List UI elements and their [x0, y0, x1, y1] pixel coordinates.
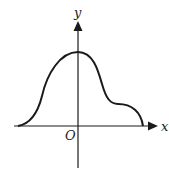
y-axis-label: y	[73, 5, 82, 20]
origin-label: O	[65, 128, 76, 143]
x-axis-label: x	[161, 119, 169, 134]
x-axis-arrow-icon	[148, 122, 158, 131]
y-axis-arrow-icon	[74, 21, 83, 31]
function-graph: y x O	[0, 0, 169, 170]
function-curve	[18, 52, 143, 126]
